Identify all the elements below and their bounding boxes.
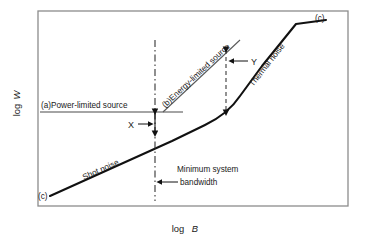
- power-limited-source-label: (a)Power-limited source: [41, 101, 128, 110]
- figure-canvas: log W log B (c) (c) (a)Power-limited sou…: [0, 0, 365, 244]
- gap-x-label: X: [128, 120, 134, 130]
- min-bandwidth-label-line2: bandwidth: [180, 178, 218, 187]
- gap-y-arrow: [226, 50, 248, 113]
- shot-noise-label: Shot noise: [81, 158, 120, 182]
- min-bandwidth-label-line1: Minimum system: [177, 165, 239, 174]
- y-axis-label-var: W: [11, 89, 22, 99]
- x-axis-label: log B: [172, 223, 198, 234]
- y-axis-label: log W: [11, 89, 22, 116]
- y-axis-label-log: log: [11, 104, 22, 117]
- curve-endpoint-upper-label: (c): [315, 14, 325, 23]
- curve-endpoint-lower-label: (c): [38, 192, 48, 201]
- gap-y-label: Y: [251, 57, 257, 67]
- gap-x-arrow: [138, 112, 155, 134]
- energy-limited-source-label: (b)Energy-limited source: [160, 42, 232, 110]
- noise-vs-bandwidth-figure: log W log B (c) (c) (a)Power-limited sou…: [0, 0, 365, 244]
- x-axis-label-log: log: [172, 223, 185, 234]
- x-axis-label-var: B: [192, 223, 198, 234]
